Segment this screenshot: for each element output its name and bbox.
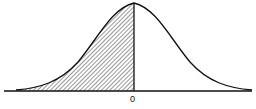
zero-label: 0 bbox=[130, 94, 135, 104]
shaded-left-area bbox=[16, 3, 134, 91]
normal-curve-diagram bbox=[0, 0, 256, 109]
